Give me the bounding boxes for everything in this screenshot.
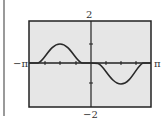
y-max-label: 2 [86,10,92,20]
plot-frame [29,21,151,107]
x-min-label: −π [13,59,28,69]
x-max-label: π [154,59,161,69]
y-min-label: −2 [83,110,98,120]
